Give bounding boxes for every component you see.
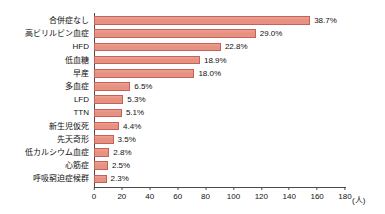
- category-label: 先天奇形: [57, 135, 89, 144]
- category-label: 心筋症: [65, 161, 89, 170]
- bar-value-label: 18.0%: [198, 69, 221, 78]
- bar-value-label: 3.5%: [118, 135, 136, 144]
- bar: [94, 175, 107, 184]
- x-tick: 0: [92, 187, 96, 201]
- bar: [94, 109, 122, 118]
- x-axis-unit-label: (人): [352, 196, 365, 205]
- x-tick: 60: [173, 187, 182, 201]
- bar-value-label: 2.5%: [112, 161, 130, 170]
- bar-chart: 合併症なし38.7%高ビリルビン血症29.0%HFD22.8%低血糖18.9%早…: [0, 0, 385, 214]
- x-tick-label: 40: [145, 192, 154, 201]
- bar-rows: 合併症なし38.7%高ビリルビン血症29.0%HFD22.8%低血糖18.9%早…: [94, 14, 345, 185]
- category-label: 呼吸窮迫症候群: [33, 174, 89, 183]
- bar: [94, 56, 200, 65]
- bar-value-label: 29.0%: [260, 29, 283, 38]
- x-tick-label: 80: [201, 192, 210, 201]
- category-label: 多血症: [65, 82, 89, 91]
- x-tick-mark: [261, 187, 262, 190]
- bar-value-label: 18.9%: [204, 56, 227, 65]
- bar: [94, 16, 310, 25]
- bar-row: 高ビリルビン血症29.0%: [94, 27, 345, 40]
- bar-row: 心筋症2.5%: [94, 159, 345, 172]
- x-tick-mark: [289, 187, 290, 190]
- x-tick-mark: [121, 187, 122, 190]
- x-tick-label: 100: [227, 192, 240, 201]
- x-tick-mark: [233, 187, 234, 190]
- x-tick-label: 140: [283, 192, 296, 201]
- bar-row: 呼吸窮迫症候群2.3%: [94, 172, 345, 185]
- x-tick-label: 120: [255, 192, 268, 201]
- category-label: TTN: [73, 108, 89, 117]
- bar: [94, 82, 130, 91]
- category-label: 新生児仮死: [49, 122, 89, 131]
- category-label: 早産: [73, 69, 89, 78]
- bar-row: 低血糖18.9%: [94, 54, 345, 67]
- x-tick-mark: [317, 187, 318, 190]
- x-tick: 40: [145, 187, 154, 201]
- x-tick-label: 20: [117, 192, 126, 201]
- bar-value-label: 5.3%: [127, 95, 145, 104]
- x-tick: 20: [117, 187, 126, 201]
- bar: [94, 135, 114, 144]
- x-tick-mark: [149, 187, 150, 190]
- bar-row: LFD5.3%: [94, 93, 345, 106]
- x-tick: 100: [227, 187, 240, 201]
- x-tick-mark: [205, 187, 206, 190]
- bar-value-label: 2.3%: [111, 174, 129, 183]
- bar-row: 合併症なし38.7%: [94, 14, 345, 27]
- bar-value-label: 22.8%: [225, 42, 248, 51]
- category-label: 合併症なし: [49, 16, 89, 25]
- x-tick: 140: [283, 187, 296, 201]
- bar-value-label: 38.7%: [314, 16, 337, 25]
- bar: [94, 43, 221, 52]
- bar-value-label: 5.1%: [126, 108, 144, 117]
- x-tick: 120: [255, 187, 268, 201]
- x-tick-label: 180: [338, 192, 351, 201]
- x-tick-mark: [93, 187, 94, 190]
- bar-value-label: 2.8%: [113, 148, 131, 157]
- x-tick: 180: [338, 187, 351, 201]
- plot-area: 合併症なし38.7%高ビリルビン血症29.0%HFD22.8%低血糖18.9%早…: [94, 14, 345, 186]
- bar-value-label: 6.5%: [134, 82, 152, 91]
- bar-row: HFD22.8%: [94, 40, 345, 53]
- x-tick: 160: [310, 187, 323, 201]
- x-tick-label: 0: [92, 192, 96, 201]
- bar-row: 先天奇形3.5%: [94, 133, 345, 146]
- bar-row: 多血症6.5%: [94, 80, 345, 93]
- bar-value-label: 4.4%: [123, 122, 141, 131]
- x-tick-mark: [177, 187, 178, 190]
- bar: [94, 161, 108, 170]
- x-axis-ticks: 020406080100120140160180: [94, 187, 345, 213]
- bar: [94, 148, 109, 157]
- category-label: 低カルシウム血症: [25, 148, 89, 157]
- bar: [94, 95, 123, 104]
- x-tick-label: 160: [310, 192, 323, 201]
- category-label: HFD: [73, 42, 89, 51]
- bar-row: 早産18.0%: [94, 67, 345, 80]
- bar-row: 低カルシウム血症2.8%: [94, 146, 345, 159]
- bar-row: 新生児仮死4.4%: [94, 120, 345, 133]
- category-label: 高ビリルビン血症: [25, 29, 89, 38]
- category-label: LFD: [74, 95, 89, 104]
- bar: [94, 29, 256, 38]
- category-label: 低血糖: [65, 56, 89, 65]
- x-tick-mark: [344, 187, 345, 190]
- x-tick: 80: [201, 187, 210, 201]
- bar: [94, 69, 194, 78]
- bar: [94, 122, 119, 131]
- x-tick-label: 60: [173, 192, 182, 201]
- bar-row: TTN5.1%: [94, 106, 345, 119]
